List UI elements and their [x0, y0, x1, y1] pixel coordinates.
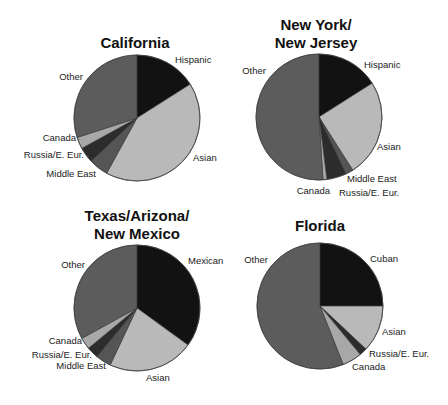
slice-label-other: Other	[61, 259, 85, 270]
pie-chart-florida: FloridaCubanAsianRussia/E. Eur.CanadaOth…	[244, 217, 429, 372]
slice-label-hispanic: Hispanic	[175, 54, 212, 65]
pie-charts-figure: CaliforniaHispanicAsianMiddle EastRussia…	[0, 0, 448, 405]
pie-title: California	[100, 34, 170, 51]
slice-label-canada: Canada	[49, 335, 83, 346]
pie-title: New Mexico	[94, 225, 180, 242]
slice-label-other: Other	[242, 65, 266, 76]
slice-label-canada: Canada	[297, 185, 331, 196]
slice-label-asian: Asian	[193, 152, 217, 163]
pie-chart-texas-arizona-new-mexico: Texas/Arizona/New MexicoMexicanAsianMidd…	[32, 207, 224, 383]
slice-label-asian: Asian	[377, 141, 401, 152]
pie-chart-california: CaliforniaHispanicAsianMiddle EastRussia…	[24, 34, 217, 181]
pie-title: New Jersey	[275, 34, 358, 51]
slice-label-asian: Asian	[382, 326, 406, 337]
slice-label-middle-east: Middle East	[46, 168, 96, 179]
pie-title: Texas/Arizona/	[85, 207, 191, 224]
slice-label-cuban: Cuban	[370, 253, 398, 264]
slice-label-russia-e-eur: Russia/E. Eur.	[24, 149, 84, 160]
slice-label-mexican: Mexican	[188, 255, 223, 266]
pie-title: New York/	[280, 16, 352, 33]
slice-label-russia-e-eur: Russia/E. Eur.	[32, 349, 92, 360]
slice-label-asian: Asian	[146, 372, 170, 383]
pie-slice-other	[256, 54, 323, 180]
slice-label-canada: Canada	[43, 132, 77, 143]
pie-title: Florida	[295, 217, 346, 234]
slice-label-middle-east: Middle East	[56, 360, 106, 371]
slice-label-other: Other	[244, 254, 268, 265]
slice-label-russia-e-eur: Russia/E. Eur.	[339, 187, 399, 198]
slice-label-middle-east: Middle East	[347, 173, 397, 184]
pie-chart-new-york-new-jersey: New York/New JerseyHispanicAsianMiddle E…	[242, 16, 401, 198]
slice-label-canada: Canada	[352, 361, 386, 372]
slice-label-hispanic: Hispanic	[364, 59, 401, 70]
slice-label-russia-e-eur: Russia/E. Eur.	[369, 348, 429, 359]
slice-label-other: Other	[59, 71, 83, 82]
